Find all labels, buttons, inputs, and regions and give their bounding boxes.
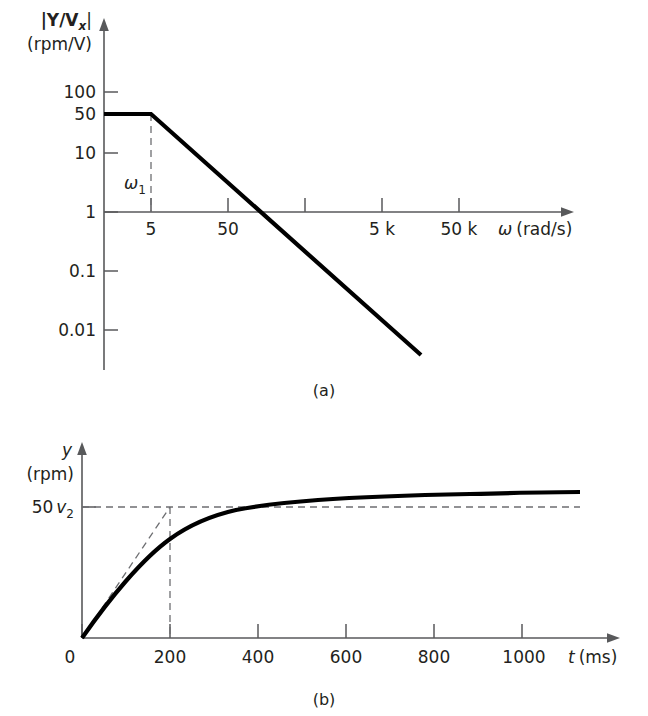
- bode-and-step-response-figure: 100 50 10 1 0.1 0.01 |Y/Vx| (rpm/V) 5 50…: [0, 0, 648, 716]
- panel-a-x-axis-title: ω(rad/s): [498, 219, 572, 239]
- panel-b-x-axis-arrowhead: [607, 633, 620, 643]
- panel-b-xlabel-400: 400: [242, 647, 274, 667]
- panel-a-y-axis-arrowhead: [99, 18, 109, 31]
- panel-b: 50v2 y (rpm) 0 200 400 600 800 1000 t(ms…: [26, 440, 620, 709]
- panel-a-ylabel-0p01: 0.01: [58, 320, 96, 340]
- panel-a-ylabel-10: 10: [74, 143, 96, 163]
- panel-a-y-axis-title-close: |: [86, 10, 92, 30]
- panel-b-x-axis-title-units: (ms): [579, 647, 618, 667]
- panel-b-xlabel-800: 800: [418, 647, 450, 667]
- panel-a-y-axis-title-main: |Y/V: [41, 10, 80, 30]
- panel-b-y-axis-units: (rpm): [26, 464, 74, 484]
- panel-a-x-axis-title-units: (rad/s): [516, 219, 572, 239]
- panel-a-ylabel-100: 100: [64, 82, 96, 102]
- panel-a-ylabel-50: 50: [74, 104, 96, 124]
- panel-a-breakpoint-sub: 1: [138, 183, 146, 197]
- panel-a-ylabel-0p1: 0.1: [69, 261, 96, 281]
- panel-b-ylabel-final-value: 50v2: [32, 497, 74, 521]
- panel-a-ylabel-1: 1: [85, 202, 96, 222]
- panel-a-breakpoint-label: ω1: [124, 173, 146, 197]
- figure-root: 100 50 10 1 0.1 0.01 |Y/Vx| (rpm/V) 5 50…: [0, 0, 648, 716]
- panel-b-xlabel-0: 0: [65, 647, 76, 667]
- panel-b-xlabel-1000: 1000: [502, 647, 545, 667]
- panel-a-xlabel-5k: 5 k: [369, 219, 395, 239]
- panel-a-xlabel-5: 5: [146, 219, 157, 239]
- panel-b-xlabel-200: 200: [154, 647, 186, 667]
- panel-a-xlabel-50k: 50 k: [441, 219, 478, 239]
- panel-b-y-axis-title-symbol: y: [61, 440, 73, 460]
- panel-b-x-axis-title: t(ms): [568, 647, 617, 667]
- panel-b-ylabel-sub: 2: [66, 507, 74, 521]
- panel-a-xlabel-50: 50: [217, 219, 239, 239]
- panel-a-y-axis-title: |Y/Vx|: [41, 10, 92, 33]
- panel-a-x-axis-title-symbol: ω: [498, 219, 512, 239]
- panel-b-ylabel-value: 50: [32, 497, 54, 517]
- panel-a-y-axis-units: (rpm/V): [27, 34, 92, 54]
- panel-a-caption: (a): [313, 381, 335, 400]
- panel-b-y-axis-arrowhead: [77, 442, 87, 455]
- panel-b-step-response-curve: [82, 492, 580, 638]
- panel-b-x-axis-title-symbol: t: [568, 647, 576, 667]
- panel-a: 100 50 10 1 0.1 0.01 |Y/Vx| (rpm/V) 5 50…: [27, 10, 574, 400]
- panel-a-breakpoint-symbol: ω: [124, 173, 138, 193]
- panel-a-x-axis-arrowhead: [561, 207, 574, 217]
- panel-b-xlabel-600: 600: [330, 647, 362, 667]
- panel-b-caption: (b): [313, 690, 336, 709]
